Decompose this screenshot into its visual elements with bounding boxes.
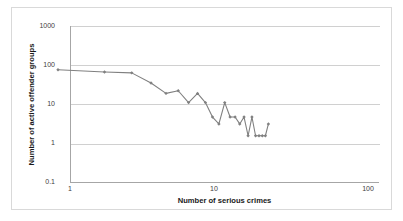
gridline-10 xyxy=(71,104,380,105)
plot-area xyxy=(70,26,379,183)
gridline-100 xyxy=(71,65,380,66)
x-tick-label-10: 10 xyxy=(201,185,227,193)
x-tick-label-100: 100 xyxy=(355,185,381,193)
y-axis-label: Number of active offender groups xyxy=(26,26,38,183)
chart-figure: 1000 100 10 1 0.1 1 10 100 Number of act… xyxy=(0,0,403,221)
gridline-1000 xyxy=(71,26,380,27)
x-axis-label: Number of serious crimes xyxy=(70,196,379,206)
gridline-1 xyxy=(71,144,380,145)
x-tick-label-1: 1 xyxy=(57,185,83,193)
chart-frame: 1000 100 10 1 0.1 1 10 100 Number of act… xyxy=(11,7,392,210)
